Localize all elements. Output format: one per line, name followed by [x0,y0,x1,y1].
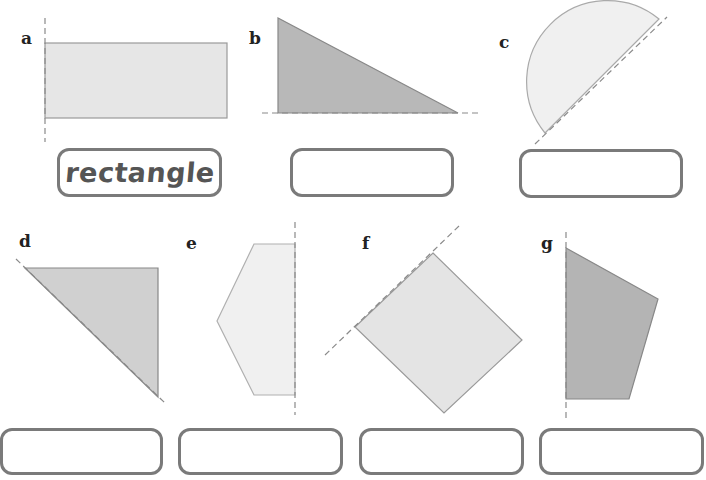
item-label-b: b [249,30,261,47]
item-label-d: d [19,233,31,250]
shape-a-half-rectangle-icon [45,18,227,142]
shapes-canvas [0,0,706,480]
answer-box-f[interactable] [359,428,524,475]
item-label-e: e [186,235,197,252]
answer-box-a[interactable]: rectangle [57,148,222,197]
answer-box-g[interactable] [539,428,704,475]
answer-text-a: rectangle [63,157,216,188]
shape-g-quadrilateral-icon [566,232,658,418]
shape-c-semicircle-icon [527,1,667,144]
shape-d-right-triangle-icon [16,259,166,404]
item-label-f: f [362,235,369,252]
answer-box-d[interactable] [0,428,163,475]
answer-box-e[interactable] [178,428,343,475]
shape-b-right-triangle-icon [262,18,480,113]
shape-f-square-icon [325,226,522,413]
item-label-c: c [499,34,509,51]
item-label-a: a [21,30,32,47]
shape-e-half-hexagon-icon [217,222,295,415]
answer-box-b[interactable] [290,148,454,197]
item-label-g: g [541,235,553,252]
answer-box-c[interactable] [519,149,683,198]
